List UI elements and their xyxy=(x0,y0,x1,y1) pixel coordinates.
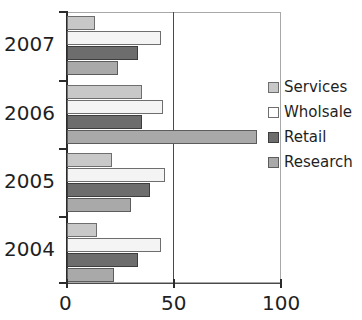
legend-item-services: Services xyxy=(268,76,362,98)
bar-2006-research xyxy=(67,130,257,144)
y-axis-tick xyxy=(59,11,67,13)
legend-item-wholsale: Wholsale xyxy=(268,101,362,123)
legend-label-retail: Retail xyxy=(284,129,326,146)
bar-2005-services xyxy=(67,153,112,167)
x-axis-tick-50 xyxy=(173,279,175,288)
bar-2007-wholsale xyxy=(67,31,161,45)
bar-2005-wholsale xyxy=(67,168,165,182)
bar-2004-retail xyxy=(67,253,138,267)
gridline-50 xyxy=(173,12,174,283)
y-axis-label-2005: 2005 xyxy=(4,170,58,192)
x-axis-tick-0 xyxy=(66,279,68,288)
x-axis-tick-100 xyxy=(280,279,282,288)
bar-chart: 2007 2006 2005 2004 0 50 100 Services Wh… xyxy=(0,0,362,320)
bar-2006-services xyxy=(67,85,142,99)
y-axis-label-2007: 2007 xyxy=(4,33,58,55)
y-axis-tick xyxy=(59,148,67,150)
bar-2007-retail xyxy=(67,46,138,60)
x-axis-label-100: 100 xyxy=(262,291,300,315)
legend-label-wholsale: Wholsale xyxy=(284,104,352,121)
bar-2005-retail xyxy=(67,183,150,197)
legend-swatch-icon xyxy=(268,157,279,168)
bar-2007-services xyxy=(67,16,95,30)
x-axis-label-50: 50 xyxy=(161,291,186,315)
bar-2004-wholsale xyxy=(67,238,161,252)
bar-2006-wholsale xyxy=(67,100,163,114)
y-axis-tick xyxy=(59,80,67,82)
legend-label-research: Research xyxy=(284,154,353,171)
y-axis-label-2006: 2006 xyxy=(4,102,58,124)
legend-swatch-icon xyxy=(268,82,279,93)
bar-2006-retail xyxy=(67,115,142,129)
y-axis-tick xyxy=(59,216,67,218)
legend: Services Wholsale Retail Research xyxy=(268,76,362,176)
x-axis-label-0: 0 xyxy=(59,291,72,315)
legend-swatch-icon xyxy=(268,132,279,143)
bar-2007-research xyxy=(67,61,118,75)
legend-item-research: Research xyxy=(268,151,362,173)
legend-swatch-icon xyxy=(268,107,279,118)
legend-item-retail: Retail xyxy=(268,126,362,148)
bar-2004-research xyxy=(67,268,114,282)
bar-2004-services xyxy=(67,223,97,237)
bar-2005-research xyxy=(67,198,131,212)
legend-label-services: Services xyxy=(284,79,347,96)
y-axis-label-2004: 2004 xyxy=(4,238,58,260)
